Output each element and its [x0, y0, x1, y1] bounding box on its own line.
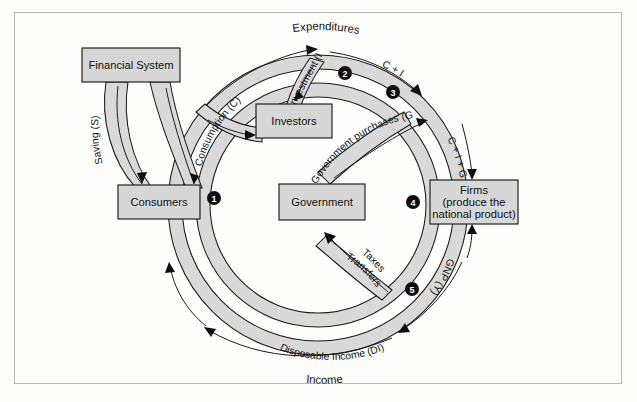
- label-expenditures: Expenditures: [292, 20, 362, 37]
- box-consumers[interactable]: Consumers: [118, 185, 200, 219]
- marker-5: 5: [405, 282, 419, 296]
- box-financial-system[interactable]: Financial System: [82, 48, 180, 82]
- label-income: Income: [306, 373, 343, 386]
- box-government-label: Government: [291, 196, 353, 208]
- label-saving-text: Saving (S): [89, 115, 105, 166]
- label-expenditures-text: Expenditures: [292, 20, 362, 37]
- box-investors-label: Investors: [271, 115, 317, 127]
- marker-1-label: 1: [211, 194, 216, 204]
- marker-1: 1: [207, 191, 221, 205]
- marker-4-label: 4: [410, 198, 415, 208]
- box-investors[interactable]: Investors: [256, 104, 332, 138]
- marker-2-label: 2: [342, 69, 347, 79]
- box-government[interactable]: Government: [279, 184, 365, 220]
- figure-canvas: Financial System Investors Consumers Gov…: [0, 0, 637, 402]
- box-firms[interactable]: Firms (produce the national product): [430, 180, 518, 224]
- circular-flow-diagram: Financial System Investors Consumers Gov…: [0, 0, 637, 402]
- marker-2: 2: [338, 66, 352, 80]
- marker-3: 3: [386, 85, 400, 99]
- box-firms-label-line1: Firms: [460, 184, 488, 196]
- label-income-text: Income: [306, 373, 343, 386]
- box-firms-label-line2: (produce the: [443, 196, 506, 208]
- label-saving: Saving (S): [89, 115, 105, 166]
- saving-band: [104, 82, 152, 188]
- marker-4: 4: [406, 195, 420, 209]
- gnp-arrow: [467, 224, 477, 258]
- box-firms-label-line3: national product): [432, 208, 516, 220]
- box-financial-system-label: Financial System: [88, 59, 173, 71]
- marker-5-label: 5: [409, 285, 414, 295]
- box-consumers-label: Consumers: [130, 196, 188, 208]
- marker-3-label: 3: [390, 88, 395, 98]
